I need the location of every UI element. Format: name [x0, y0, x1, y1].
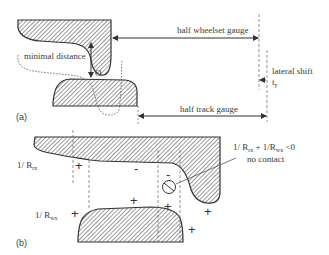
- rx-prefix: 1/ R: [17, 160, 32, 170]
- minus-sign-flange: -: [166, 168, 170, 181]
- plus-sign-center: +: [130, 194, 138, 207]
- condition-lt-zero: <0: [283, 142, 295, 152]
- lateral-shift-label: lateral shift: [272, 66, 313, 76]
- wheel-profile-a: [18, 20, 111, 75]
- point-o-label: O: [95, 68, 102, 78]
- minus-sign-center: -: [134, 162, 138, 175]
- condition-plus: + 1/R: [253, 142, 276, 152]
- lateral-shift-sub: y: [275, 82, 278, 88]
- plus-sign-right-upper: +: [204, 205, 212, 218]
- no-contact-label: no contact: [247, 154, 284, 164]
- lateral-shift-symbol: ty: [272, 77, 278, 90]
- condition-rx-prefix: 1/ R: [233, 142, 248, 152]
- panel-b-tag: (b): [16, 238, 27, 248]
- curvature-wheel-label: 1/ Rwx: [35, 210, 58, 223]
- minimal-distance-label: minimal distance: [24, 51, 86, 61]
- plus-sign-flange-low: +: [164, 200, 172, 213]
- plus-sign-right-lower: +: [188, 223, 196, 236]
- wx-prefix: 1/ R: [35, 210, 50, 220]
- plus-sign-rail-curvature: +: [75, 159, 83, 172]
- curvature-rail-label: 1/ Rrx: [17, 160, 37, 173]
- plus-sign-wheel-curvature: +: [71, 207, 79, 220]
- half-wheelset-gauge-label: half wheelset gauge: [177, 25, 248, 35]
- wheel-profile-b: [34, 137, 220, 203]
- wx-sub: wx: [50, 215, 57, 221]
- rx-sub: rx: [32, 165, 37, 171]
- panel-a-tag: (a): [16, 112, 27, 122]
- half-track-gauge-label: half track gauge: [180, 104, 238, 114]
- rail-profile-a: [53, 79, 137, 106]
